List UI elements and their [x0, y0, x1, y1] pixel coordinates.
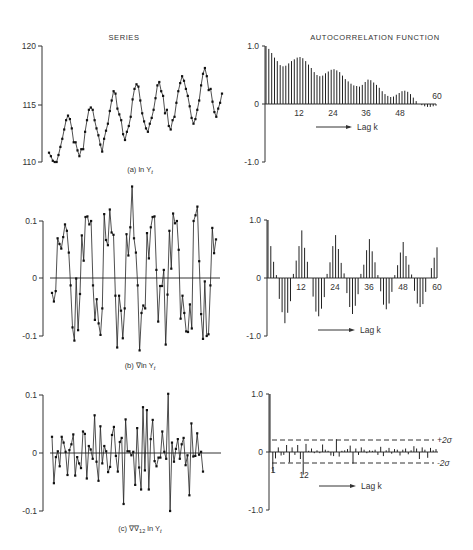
data-point: [107, 471, 109, 473]
data-point: [84, 433, 86, 435]
y-tick: 115: [22, 100, 36, 110]
data-point: [144, 307, 146, 309]
data-point: [200, 313, 202, 315]
data-point: [157, 321, 159, 323]
data-point: [139, 99, 141, 101]
data-point: [210, 88, 212, 90]
data-point: [196, 206, 198, 208]
data-point: [200, 451, 202, 453]
data-point: [154, 97, 156, 99]
data-point: [209, 284, 211, 286]
lag-tick: 1: [271, 465, 276, 475]
data-point: [116, 346, 118, 348]
data-point: [92, 109, 94, 111]
data-point: [52, 160, 54, 162]
lag-tick: 24: [330, 282, 340, 292]
data-point: [98, 322, 100, 324]
data-point: [124, 139, 126, 141]
data-point: [90, 220, 92, 222]
y-tick: 120: [22, 41, 36, 51]
panel-a-series: 120 115 110 (a) ln Yt: [22, 41, 223, 175]
data-point: [60, 248, 62, 250]
data-point: [161, 430, 163, 432]
series-line: [49, 68, 222, 162]
data-point: [217, 108, 219, 110]
data-point: [88, 223, 90, 225]
data-point: [147, 131, 149, 133]
y-tick: 0: [258, 447, 263, 457]
data-point: [94, 319, 96, 321]
data-point: [78, 462, 80, 464]
y-tick: 1.0: [247, 41, 259, 51]
data-point: [95, 127, 97, 129]
data-point: [200, 84, 202, 86]
data-point: [181, 443, 183, 445]
data-point: [99, 334, 101, 336]
data-point: [150, 438, 152, 440]
data-point: [189, 105, 191, 107]
data-point: [202, 471, 204, 473]
data-point: [70, 284, 72, 286]
data-point: [84, 131, 86, 133]
data-point: [149, 123, 151, 125]
data-point: [53, 300, 55, 302]
lag-tick: 36: [361, 108, 371, 118]
data-point: [116, 108, 118, 110]
data-point: [81, 234, 83, 236]
data-point: [153, 109, 155, 111]
lag-tick: 36: [364, 282, 374, 292]
data-point: [183, 437, 185, 439]
data-point: [204, 67, 206, 69]
data-point: [133, 88, 135, 90]
data-point: [57, 237, 59, 239]
data-point: [73, 141, 75, 143]
data-point: [68, 449, 70, 451]
data-point: [121, 437, 123, 439]
data-point: [125, 233, 127, 235]
data-point: [113, 426, 115, 428]
data-point: [130, 454, 132, 456]
data-point: [57, 154, 59, 156]
data-point: [170, 268, 172, 270]
data-point: [59, 465, 61, 467]
y-tick: 1.0: [251, 389, 263, 399]
data-point: [187, 95, 189, 97]
data-point: [146, 409, 148, 411]
y-tick: 0.1: [25, 216, 37, 226]
y-tick: 0.1: [25, 390, 37, 400]
data-point: [137, 284, 139, 286]
data-point: [198, 454, 200, 456]
data-point: [159, 285, 161, 287]
data-point: [163, 451, 165, 453]
data-point: [194, 455, 196, 457]
data-point: [172, 212, 174, 214]
data-point: [136, 427, 138, 429]
data-point: [64, 223, 66, 225]
data-point: [207, 333, 209, 335]
data-point: [86, 119, 88, 121]
data-point: [143, 120, 145, 122]
data-point: [208, 89, 210, 91]
data-point: [130, 116, 132, 118]
data-point: [111, 434, 113, 436]
data-point: [141, 112, 143, 114]
data-point: [66, 230, 68, 232]
data-point: [103, 445, 105, 447]
data-point: [56, 161, 58, 163]
data-point: [76, 149, 78, 151]
arrow-head-icon: [349, 328, 355, 332]
data-point: [161, 285, 163, 287]
data-point: [88, 445, 90, 447]
data-point: [99, 425, 101, 427]
data-point: [63, 128, 65, 130]
data-point: [97, 480, 99, 482]
data-point: [76, 456, 78, 458]
y-tick: 1.0: [249, 215, 261, 225]
data-point: [166, 294, 168, 296]
data-point: [211, 101, 213, 103]
data-point: [142, 406, 144, 408]
data-point: [86, 215, 88, 217]
data-point: [165, 344, 167, 346]
data-point: [120, 119, 122, 121]
data-point: [206, 75, 208, 77]
